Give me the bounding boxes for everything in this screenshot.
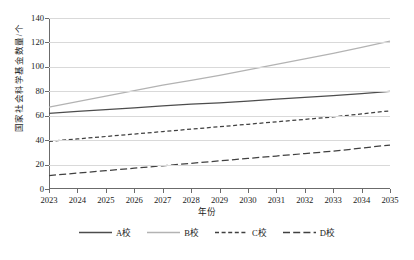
y-axis-tick [45,67,49,68]
y-axis-tick [45,140,49,141]
x-axis-tick-label: 2033 [318,196,348,205]
solid-line-swatch [147,228,180,237]
x-axis-tick-labels: 2023202420252026202720282029203020312032… [49,192,390,206]
gridline [49,42,390,43]
series-line [49,91,390,113]
y-axis-tick [45,165,49,166]
x-axis-title: 年份 [0,205,414,217]
chart-figure: 国家社会科学基金数量/个 020406080100120140 20232024… [0,0,414,260]
long-dashed-line-swatch [283,228,316,237]
legend-item[interactable]: B校 [147,226,199,238]
legend-label: B校 [184,226,199,238]
y-axis-tick-labels: 020406080100120140 [19,0,44,200]
x-axis-tick-label: 2031 [261,196,291,205]
series-line [49,41,390,107]
y-axis-tick-label: 140 [20,14,44,23]
short-dashed-line-swatch [215,228,248,237]
x-axis-tick-label: 2029 [205,196,235,205]
x-axis-tick-label: 2032 [290,196,320,205]
legend-label: D校 [320,226,335,238]
gridline [49,18,390,19]
x-axis-tick [390,189,391,193]
x-axis-tick-label: 2024 [62,196,92,205]
series-line [49,145,390,176]
gridline [49,140,390,141]
y-axis-tick-label: 60 [20,111,44,120]
legend-item[interactable]: C校 [215,226,267,238]
legend-item[interactable]: D校 [283,226,335,238]
x-axis-tick-label: 2035 [375,196,405,205]
gridline [49,165,390,166]
y-axis-tick [45,42,49,43]
x-axis-tick-label: 2023 [34,196,64,205]
y-axis-tick-label: 0 [20,185,44,194]
x-axis-tick-label: 2026 [119,196,149,205]
plot-area [49,18,390,189]
x-axis-tick-label: 2028 [176,196,206,205]
legend-label: A校 [116,226,131,238]
x-axis-tick-label: 2027 [148,196,178,205]
series-lines [49,18,390,189]
x-axis-tick-label: 2034 [347,196,377,205]
gridline [49,91,390,92]
y-axis-tick-label: 40 [20,136,44,145]
y-axis-tick [45,91,49,92]
chart-legend: A校B校C校D校 [0,226,414,238]
y-axis-tick [45,116,49,117]
x-axis-tick-label: 2025 [91,196,121,205]
y-axis-tick-label: 20 [20,160,44,169]
gridline [49,116,390,117]
legend-label: C校 [252,226,267,238]
legend-item[interactable]: A校 [79,226,131,238]
y-axis-tick-label: 120 [20,38,44,47]
y-axis-tick [45,18,49,19]
gridline [49,67,390,68]
y-axis-tick-label: 80 [20,87,44,96]
x-axis-tick-label: 2030 [233,196,263,205]
solid-line-swatch [79,228,112,237]
y-axis-tick-label: 100 [20,62,44,71]
